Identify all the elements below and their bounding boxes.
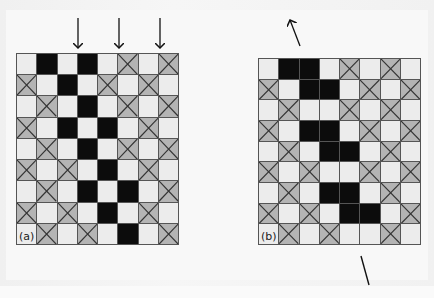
light-cell — [17, 96, 36, 116]
crossed-cell — [381, 224, 400, 244]
black-cell — [78, 181, 97, 201]
crossed-cell — [360, 80, 379, 100]
black-cell — [78, 139, 97, 159]
light-cell — [98, 224, 117, 244]
light-cell — [58, 224, 77, 244]
panel-b-grid: (b) — [258, 58, 421, 245]
light-cell — [58, 139, 77, 159]
crossed-cell — [401, 121, 420, 141]
light-cell — [139, 224, 158, 244]
crossed-cell — [58, 203, 77, 223]
light-cell — [259, 100, 278, 120]
light-cell — [118, 75, 137, 95]
crossed-cell — [300, 204, 319, 224]
black-cell — [98, 160, 117, 180]
crossed-cell — [118, 96, 137, 116]
light-cell — [320, 204, 339, 224]
crossed-cell — [139, 75, 158, 95]
crossed-cell — [381, 59, 400, 79]
panel-label: (a) — [19, 231, 34, 242]
light-cell — [58, 96, 77, 116]
light-cell — [401, 142, 420, 162]
black-cell — [98, 203, 117, 223]
light-cell — [300, 100, 319, 120]
black-cell — [320, 121, 339, 141]
light-cell — [381, 121, 400, 141]
black-cell — [37, 54, 56, 74]
cross-icon — [340, 100, 359, 120]
light-cell — [360, 59, 379, 79]
light-cell — [78, 160, 97, 180]
light-cell — [259, 59, 278, 79]
cross-icon — [37, 224, 56, 244]
crossed-cell — [37, 139, 56, 159]
crossed-cell — [381, 100, 400, 120]
cross-icon — [320, 224, 339, 244]
light-cell — [279, 162, 298, 182]
crossed-cell — [279, 142, 298, 162]
cross-icon — [37, 139, 56, 159]
light-cell — [17, 139, 36, 159]
light-cell — [78, 75, 97, 95]
light-cell — [320, 162, 339, 182]
crossed-cell — [139, 118, 158, 138]
crossed-cell — [159, 54, 178, 74]
black-cell — [320, 80, 339, 100]
cross-icon — [159, 224, 178, 244]
black-cell — [300, 121, 319, 141]
cross-icon — [159, 139, 178, 159]
light-cell — [37, 203, 56, 223]
light-cell — [37, 75, 56, 95]
cross-icon — [401, 162, 420, 182]
crossed-cell — [340, 59, 359, 79]
cross-icon — [139, 118, 158, 138]
cross-icon — [159, 54, 178, 74]
crossed-cell — [139, 160, 158, 180]
light-cell — [139, 96, 158, 116]
cross-icon — [118, 139, 137, 159]
cross-icon — [259, 162, 278, 182]
cross-icon — [279, 183, 298, 203]
crossed-cell — [37, 224, 56, 244]
light-cell — [118, 160, 137, 180]
crossed-cell — [340, 100, 359, 120]
light-cell — [98, 139, 117, 159]
cross-icon — [381, 224, 400, 244]
light-cell — [98, 181, 117, 201]
cross-icon — [259, 80, 278, 100]
cross-icon — [360, 80, 379, 100]
crossed-cell — [360, 162, 379, 182]
light-cell — [340, 224, 359, 244]
cross-icon — [381, 183, 400, 203]
crossed-cell — [98, 75, 117, 95]
crossed-cell — [17, 75, 36, 95]
crossed-cell — [37, 181, 56, 201]
cross-icon — [401, 121, 420, 141]
light-cell — [159, 203, 178, 223]
black-cell — [118, 224, 137, 244]
cross-icon — [17, 118, 36, 138]
cross-icon — [279, 142, 298, 162]
crossed-cell — [118, 139, 137, 159]
light-cell — [401, 100, 420, 120]
light-cell — [78, 203, 97, 223]
black-cell — [78, 54, 97, 74]
cross-icon — [37, 96, 56, 116]
light-cell — [300, 224, 319, 244]
crossed-cell — [381, 183, 400, 203]
light-cell — [159, 75, 178, 95]
cross-icon — [58, 160, 77, 180]
black-cell — [360, 204, 379, 224]
cross-icon — [159, 96, 178, 116]
light-cell — [381, 204, 400, 224]
panel-label: (b) — [261, 231, 277, 242]
cross-icon — [340, 59, 359, 79]
cross-icon — [139, 203, 158, 223]
crossed-cell — [259, 80, 278, 100]
crossed-cell — [279, 183, 298, 203]
light-cell — [300, 183, 319, 203]
crossed-cell — [159, 224, 178, 244]
black-cell — [98, 118, 117, 138]
light-cell — [78, 118, 97, 138]
light-cell — [340, 162, 359, 182]
